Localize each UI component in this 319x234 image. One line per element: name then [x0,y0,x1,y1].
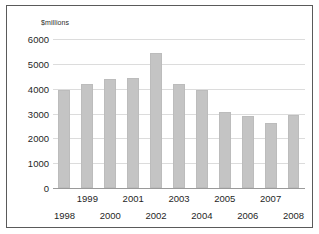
y-tick-label: 6000 [9,34,49,45]
x-tick-label: 2006 [237,210,258,221]
bar [127,78,139,188]
y-tick-label: 0 [9,183,49,194]
bar-series [53,39,305,188]
y-axis-unit-label: $millions [41,19,69,26]
x-tick-label: 2008 [283,210,304,221]
y-axis-tick-labels: 0100020003000400050006000 [7,39,49,188]
y-tick-label: 2000 [9,133,49,144]
x-tick-label: 2002 [146,210,167,221]
x-tick-label: 2005 [214,193,235,204]
y-tick-label: 1000 [9,158,49,169]
x-tick-label: 2004 [191,210,212,221]
plot-area [53,39,305,188]
bar [81,84,93,188]
bar [288,115,300,188]
bar [58,90,70,188]
y-tick-label: 5000 [9,58,49,69]
x-tick-label: 2007 [260,193,281,204]
x-tick-label: 2003 [168,193,189,204]
bar [265,123,277,188]
x-tick-label: 2001 [123,193,144,204]
chart-figure: $millions 0100020003000400050006000 1998… [0,0,319,234]
bar [150,53,162,188]
bar [219,112,231,188]
bar [173,84,185,188]
x-axis-tick-labels: 1998199920002001200220032004200520062007… [53,188,305,230]
y-tick-label: 4000 [9,83,49,94]
bar [196,90,208,188]
bar [242,116,254,188]
x-tick-label: 1998 [54,210,75,221]
y-tick-label: 3000 [9,108,49,119]
chart-frame: $millions 0100020003000400050006000 1998… [6,5,313,228]
x-tick-label: 1999 [77,193,98,204]
x-tick-label: 2000 [100,210,121,221]
bar [104,79,116,188]
